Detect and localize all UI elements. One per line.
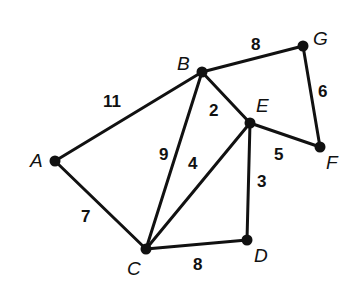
edge-A-B (55, 72, 202, 161)
edge-E-F (250, 123, 320, 147)
edge-weight-A-C: 7 (81, 207, 90, 226)
node-label-F: F (326, 152, 339, 173)
node-label-B: B (177, 53, 190, 74)
edge-weight-B-C: 9 (159, 145, 168, 164)
node-label-A: A (29, 150, 43, 171)
edge-weight-E-D: 3 (257, 172, 266, 191)
edge-weight-A-B: 11 (103, 92, 121, 111)
edge-weight-B-E: 2 (209, 101, 218, 120)
node-label-G: G (313, 28, 328, 49)
edge-E-D (247, 123, 250, 240)
node-A (50, 156, 61, 167)
edge-weight-E-C: 4 (188, 154, 198, 173)
node-label-E: E (256, 95, 269, 116)
node-B (197, 67, 208, 78)
node-D (242, 235, 253, 246)
node-label-D: D (254, 245, 268, 266)
edge-C-D (146, 240, 247, 249)
node-label-C: C (127, 258, 141, 279)
edge-weight-C-D: 8 (193, 255, 202, 274)
edge-A-C (55, 161, 146, 249)
edge-weight-G-F: 6 (318, 82, 327, 101)
weighted-graph: 11862594378ABCDEFG (0, 0, 354, 284)
edge-weight-E-F: 5 (274, 145, 283, 164)
node-G (298, 41, 309, 52)
node-E (245, 118, 256, 129)
node-C (141, 244, 152, 255)
edge-E-C (146, 123, 250, 249)
edge-weight-B-G: 8 (251, 35, 260, 54)
node-F (315, 142, 326, 153)
